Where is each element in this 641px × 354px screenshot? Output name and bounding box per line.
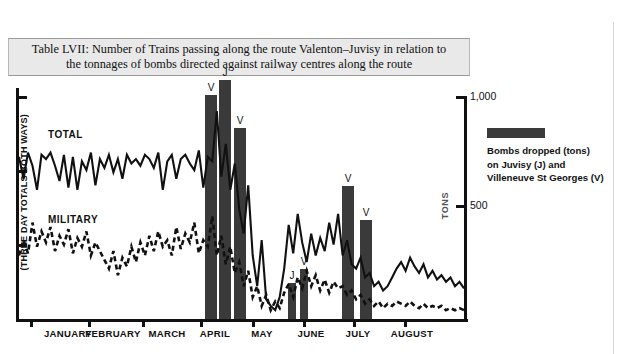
caption-line-2: the tonnages of bombs directed against r… — [66, 57, 412, 72]
bar-target-label-j: J — [223, 67, 228, 78]
chart-plot-area: (THREE DAY TOTALS BOTH WAYS) 1,000 500 T… — [0, 88, 641, 354]
legend-line-1: Bombs dropped (tons) — [487, 144, 622, 158]
legend-swatch-bombs — [487, 128, 545, 138]
legend-line-3: Villeneuve St Georges (V) — [487, 171, 622, 185]
military-trains-line — [19, 216, 464, 310]
figure-page: Table LVII: Number of Trains passing alo… — [0, 0, 641, 354]
legend-text-bombs: Bombs dropped (tons) on Juvisy (J) and V… — [487, 144, 622, 185]
figure-caption: Table LVII: Number of Trains passing alo… — [8, 38, 470, 76]
caption-line-1: Table LVII: Number of Trains passing alo… — [32, 42, 446, 57]
legend-line-2: on Juvisy (J) and — [487, 158, 622, 172]
